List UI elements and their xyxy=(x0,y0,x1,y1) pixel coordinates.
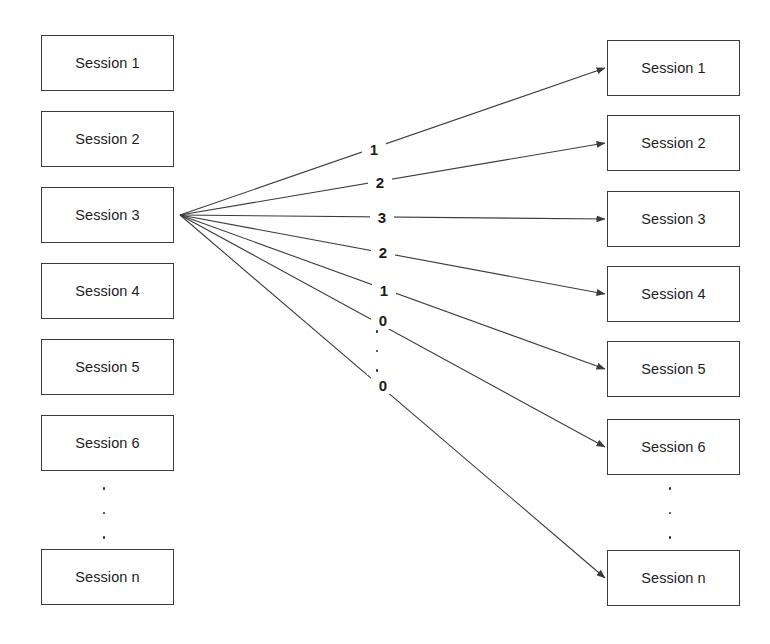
source-column-vertical-ellipsis-icon xyxy=(99,487,109,539)
source-session-box[interactable]: Session 3 xyxy=(41,187,174,243)
session-box-label: Session 6 xyxy=(641,439,706,455)
target-session-box[interactable]: Session 5 xyxy=(607,341,740,397)
edge-weight-label: 3 xyxy=(373,210,391,225)
similarity-edge xyxy=(180,68,605,215)
session-box-label: Session 3 xyxy=(75,207,140,223)
session-box-label: Session 1 xyxy=(641,60,706,76)
session-box-label: Session 3 xyxy=(641,211,706,227)
source-session-box[interactable]: Session 2 xyxy=(41,111,174,167)
source-session-box[interactable]: Session 1 xyxy=(41,35,174,91)
source-session-box[interactable]: Session 4 xyxy=(41,263,174,319)
target-session-box[interactable]: Session 1 xyxy=(607,40,740,96)
edge-weight-label: 1 xyxy=(365,142,383,157)
session-box-label: Session 5 xyxy=(75,359,140,375)
edge-weight-label: 0 xyxy=(374,378,392,393)
session-box-label: Session 2 xyxy=(641,135,706,151)
target-session-box[interactable]: Session 6 xyxy=(607,419,740,475)
target-column-vertical-ellipsis-icon xyxy=(665,487,675,539)
edge-weight-label: 1 xyxy=(375,283,393,298)
target-session-box[interactable]: Session 2 xyxy=(607,115,740,171)
session-box-label: Session 1 xyxy=(75,55,140,71)
session-box-label: Session 5 xyxy=(641,361,706,377)
source-session-box[interactable]: Session 6 xyxy=(41,415,174,471)
similarity-edge xyxy=(180,143,605,215)
edge-label-vertical-ellipsis-icon xyxy=(370,330,384,372)
session-box-label: Session 6 xyxy=(75,435,140,451)
session-box-label: Session 2 xyxy=(75,131,140,147)
edge-weight-label: 2 xyxy=(374,245,392,260)
session-box-label: Session 4 xyxy=(75,283,140,299)
source-session-box[interactable]: Session 5 xyxy=(41,339,174,395)
session-box-label: Session n xyxy=(75,569,140,585)
target-session-box[interactable]: Session 3 xyxy=(607,191,740,247)
edge-weight-label: 2 xyxy=(371,175,389,190)
source-session-box[interactable]: Session n xyxy=(41,549,174,605)
session-box-label: Session n xyxy=(641,570,706,586)
session-box-label: Session 4 xyxy=(641,286,706,302)
diagram-canvas: Session 1Session 2Session 3Session 4Sess… xyxy=(0,0,770,644)
target-session-box[interactable]: Session 4 xyxy=(607,266,740,322)
similarity-edge xyxy=(180,215,605,578)
target-session-box[interactable]: Session n xyxy=(607,550,740,606)
edge-weight-label: 0 xyxy=(374,313,392,328)
